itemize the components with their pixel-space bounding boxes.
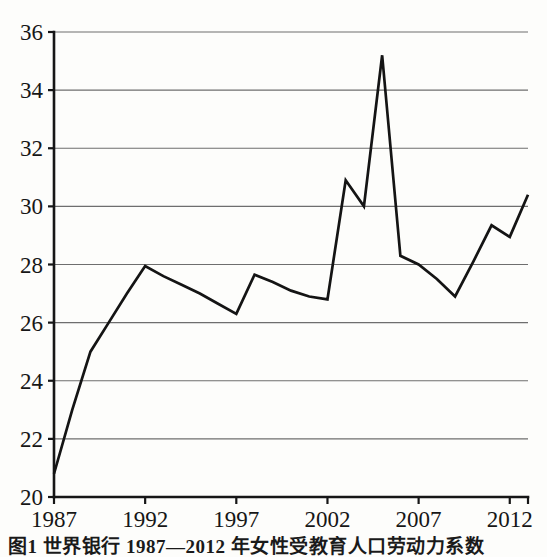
x-axis-tick-label: 1997 — [213, 507, 259, 530]
y-axis-tick-labels: 202224262830323436 — [20, 20, 44, 510]
y-axis-tick-label: 22 — [20, 427, 43, 452]
y-axis-tick-label: 30 — [20, 194, 43, 219]
figure-caption: 图1 世界银行 1987—2012 年女性受教育人口劳动力系数 — [8, 536, 547, 557]
x-axis-tick-label: 2012 — [487, 507, 533, 530]
y-axis-tick-label: 32 — [20, 136, 43, 161]
x-axis-tick-label: 1992 — [122, 507, 168, 530]
figure-container: 202224262830323436 198719921997200220072… — [0, 0, 547, 557]
y-axis-tick-label: 24 — [20, 369, 44, 394]
x-axis-tick-label: 2007 — [396, 507, 442, 530]
figure-caption-band: 图1 世界银行 1987—2012 年女性受教育人口劳动力系数 — [0, 536, 547, 557]
y-axis-tick-label: 26 — [20, 311, 43, 336]
y-axis-tick-label: 36 — [20, 20, 43, 45]
y-axis-tick-label: 34 — [20, 78, 44, 103]
x-axis-tick-label: 1987 — [31, 507, 77, 530]
y-axis-tick-label: 28 — [20, 253, 43, 278]
line-chart: 202224262830323436 198719921997200220072… — [0, 0, 547, 530]
x-axis-tick-label: 2002 — [304, 507, 350, 530]
